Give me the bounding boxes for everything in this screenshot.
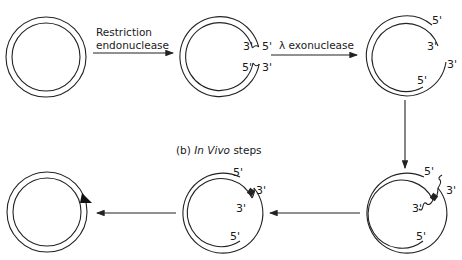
resected-plasmid: 5' 3' 3' 5' bbox=[366, 14, 457, 96]
annealed-with-flap: 5' 3' 3' 5' bbox=[367, 165, 456, 253]
svg-text:3': 3' bbox=[412, 202, 422, 215]
arrow-exonuclease: λ exonuclease bbox=[271, 39, 357, 55]
plasmid-repair-diagram: Restriction endonuclease 3' 5' 5' 3' λ e… bbox=[0, 0, 462, 260]
svg-text:5': 5' bbox=[424, 165, 434, 178]
intact-plasmid bbox=[6, 17, 86, 97]
triangle-marker-icon bbox=[80, 193, 92, 203]
svg-text:5': 5' bbox=[262, 40, 272, 53]
cut-plasmid: 3' 5' 5' 3' bbox=[180, 17, 272, 97]
final-plasmid-with-marker bbox=[7, 172, 92, 252]
svg-text:3': 3' bbox=[256, 184, 266, 197]
section-b-label: (b) In Vivo steps bbox=[176, 144, 262, 156]
svg-text:5': 5' bbox=[416, 230, 426, 243]
svg-text:5': 5' bbox=[417, 74, 427, 87]
restriction-label-line1: Restriction bbox=[96, 26, 152, 38]
arrow-restriction: Restriction endonuclease bbox=[93, 26, 173, 53]
svg-text:3': 3' bbox=[446, 184, 456, 197]
svg-text:3': 3' bbox=[243, 40, 253, 53]
exonuclease-label: λ exonuclease bbox=[279, 39, 354, 51]
svg-text:3': 3' bbox=[447, 58, 457, 71]
repaired-gap: 5' 3' 3' 5' bbox=[183, 166, 266, 253]
svg-text:5': 5' bbox=[432, 14, 442, 27]
svg-text:3': 3' bbox=[236, 202, 246, 215]
svg-text:3': 3' bbox=[427, 40, 437, 53]
svg-text:3': 3' bbox=[262, 61, 272, 74]
svg-text:5': 5' bbox=[242, 61, 252, 74]
svg-text:5': 5' bbox=[233, 166, 243, 179]
svg-text:5': 5' bbox=[230, 230, 240, 243]
restriction-label-line2: endonuclease bbox=[96, 39, 169, 51]
